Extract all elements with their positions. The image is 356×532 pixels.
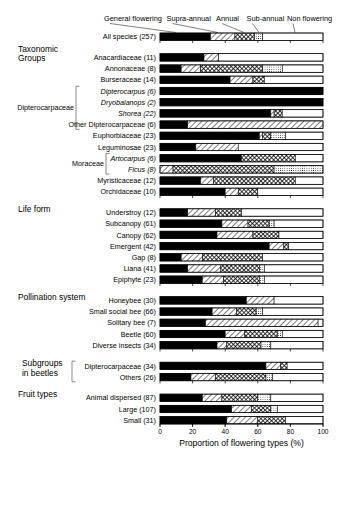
bar-segment-general-flowering: [160, 54, 204, 61]
bar-segment-supra-annual: [188, 265, 221, 272]
bar-segment-non-flowering: [286, 417, 323, 424]
bar-segment-non-flowering: [263, 254, 323, 261]
bar-segment-supra-annual: [181, 65, 201, 72]
bar-segment-annual: [215, 209, 241, 216]
section-heading: Fruit types: [18, 389, 57, 399]
bar-segment-general-flowering: [160, 76, 230, 83]
bar-segment-non-flowering: [263, 308, 323, 315]
bar-segment-non-flowering: [238, 143, 323, 150]
row-label: Honeybee (30): [108, 296, 156, 305]
bar-segment-annual: [274, 110, 282, 117]
bar-segment-non-flowering: [295, 177, 323, 184]
legend-label-annual: Annual: [216, 14, 239, 23]
bar-segment-annual: [224, 276, 260, 283]
row-label: Ficus (8): [128, 165, 156, 174]
row-label: Dipterocarpaceae (34): [84, 362, 156, 371]
legend-leader-line: [253, 24, 260, 33]
bars-area: All species (257)Anacardiaceae (11)Annon…: [69, 32, 324, 426]
axis-tick-label: 60: [254, 428, 262, 435]
row-label: Anacardiaceae (11): [94, 53, 156, 62]
bar-segment-sub-annual: [259, 276, 264, 283]
bar-segment-general-flowering: [160, 394, 202, 401]
bar-segment-non-flowering: [286, 132, 323, 139]
legend-label-sub_annual: Sub-annual: [247, 14, 285, 23]
bar-segment-supra-annual: [211, 33, 235, 40]
bar-segment-supra-annual: [160, 166, 173, 173]
bar-segment-non-flowering: [264, 265, 323, 272]
bar-segment-supra-annual: [204, 54, 219, 61]
bar-segment-annual: [227, 342, 261, 349]
axis-tick-label: 80: [287, 428, 295, 435]
bracket-label-moraceae: Moraceae: [72, 159, 104, 168]
bar-segment-non-flowering: [264, 276, 323, 283]
bar-segment-non-flowering: [287, 362, 323, 369]
bar-segment-annual: [222, 394, 258, 401]
bar-segment-supra-annual: [188, 209, 216, 216]
bar-segment-supra-annual: [206, 319, 318, 326]
bar-segment-sub-annual: [261, 342, 271, 349]
bar-segment-supra-annual: [191, 373, 215, 380]
bar-segment-non-flowering: [271, 394, 323, 401]
bar-segment-non-flowering: [282, 65, 323, 72]
bar-segment-non-flowering: [271, 342, 323, 349]
bar-segment-sub-annual: [271, 405, 278, 412]
bar-segment-sub-annual: [277, 330, 282, 337]
row-label: All species (257): [103, 32, 156, 41]
bar-segment-annual: [248, 220, 269, 227]
bar-segment-non-flowering: [295, 155, 323, 162]
bar-segment-non-flowering: [282, 330, 323, 337]
bar-segment-general-flowering: [160, 155, 242, 162]
bar-segment-general-flowering: [160, 319, 206, 326]
x-axis: 020406080100Proportion of flowering type…: [158, 424, 329, 448]
bar-segment-general-flowering: [160, 110, 271, 117]
bar-segment-annual: [253, 231, 279, 238]
bar-segment-annual: [214, 177, 295, 184]
bar-segment-non-flowering: [274, 220, 323, 227]
bar-segment-annual: [281, 362, 288, 369]
axis-tick-label: 40: [222, 428, 230, 435]
bar-segment-non-flowering: [289, 242, 323, 249]
bar-segment-annual: [258, 417, 286, 424]
row-label: Epiphyte (23): [113, 275, 156, 284]
row-label: Emergent (42): [110, 242, 156, 251]
row-label: Other Dipterocarpaceae (6): [69, 120, 157, 129]
row-label: Shorea (22): [118, 109, 156, 118]
section-heading: Pollination system: [18, 292, 86, 302]
flowering-types-chart: General floweringSupra-annualAnnualSub-a…: [0, 0, 356, 532]
bar-segment-supra-annual: [269, 242, 284, 249]
row-label: Dipterocarpus (6): [100, 87, 156, 96]
bar-segment-non-flowering: [274, 297, 323, 304]
bar-segment-annual: [284, 242, 289, 249]
bar-segment-annual: [253, 76, 264, 83]
section-heading: Life form: [18, 204, 51, 214]
row-label: Artocarpus (6): [109, 154, 156, 163]
row-label: Orchidaceae (10): [100, 187, 156, 196]
bar-segment-non-flowering: [264, 76, 323, 83]
bar-segment-general-flowering: [160, 362, 266, 369]
bar-segment-annual: [237, 308, 257, 315]
bar-segment-supra-annual: [188, 121, 323, 128]
row-label: Animal dispersed (87): [86, 393, 156, 402]
bar-segment-supra-annual: [232, 405, 252, 412]
bar-segment-sub-annual: [255, 33, 263, 40]
bar-segment-general-flowering: [160, 33, 211, 40]
bar-segment-non-flowering: [272, 373, 323, 380]
row-label: Euphorbiaceae (23): [93, 131, 156, 140]
section-labels: TaxonomicGroupsLife formPollination syst…: [18, 44, 86, 399]
bar-segment-non-flowering: [282, 110, 323, 117]
bar-segment-general-flowering: [160, 65, 181, 72]
bar-segment-sub-annual: [274, 166, 323, 173]
bar-segment-non-flowering: [318, 319, 323, 326]
legend-label-supra_annual: Supra-annual: [167, 14, 212, 23]
row-label: Beetle (60): [121, 330, 156, 339]
bar-segment-supra-annual: [225, 330, 245, 337]
row-label: Burseraceae (14): [100, 75, 156, 84]
bar-segment-general-flowering: [160, 308, 212, 315]
bar-segment-general-flowering: [160, 209, 188, 216]
axis-tick-label: 20: [189, 428, 197, 435]
bar-segment-sub-annual: [259, 265, 264, 272]
bar-segment-supra-annual: [246, 297, 274, 304]
bar-segment-supra-annual: [217, 231, 253, 238]
bar-segment-general-flowering: [160, 231, 217, 238]
bar-segment-supra-annual: [201, 177, 214, 184]
